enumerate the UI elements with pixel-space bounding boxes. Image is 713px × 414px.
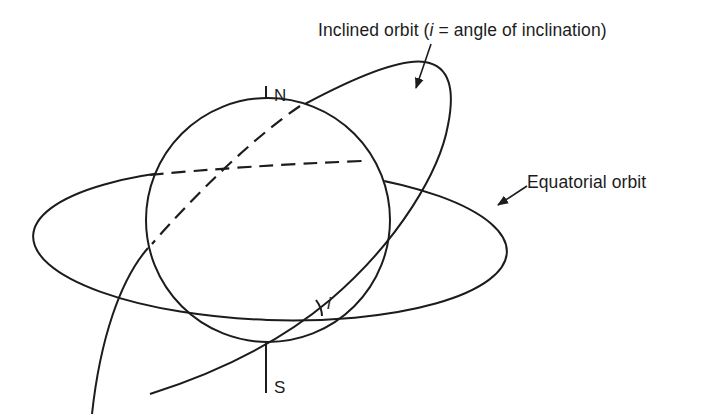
angle-i-label: i	[327, 295, 331, 312]
equatorial-orbit-label: Equatorial orbit	[527, 174, 646, 192]
inclined-orbit-arrow	[416, 44, 431, 88]
orbit-diagram	[0, 0, 713, 414]
earth-sphere	[146, 98, 390, 342]
equatorial-orbit-arrow	[498, 186, 527, 205]
inclined-orbit-label-prefix: Inclined orbit (	[318, 20, 430, 40]
south-label: S	[274, 379, 285, 396]
inclined-orbit-label-suffix: = angle of inclination)	[434, 20, 607, 40]
inclined-orbit-label: Inclined orbit (i = angle of inclination…	[318, 22, 607, 40]
equatorial-orbit	[30, 160, 509, 328]
inclined-orbit	[92, 62, 451, 414]
north-label: N	[274, 87, 286, 104]
